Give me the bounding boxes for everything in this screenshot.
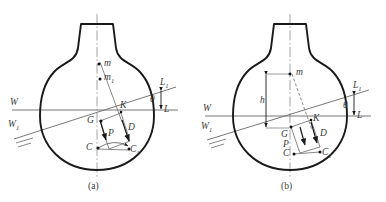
point-dot-K-a bbox=[120, 111, 123, 114]
label-m-b: m bbox=[296, 67, 303, 77]
point-dot-m-a bbox=[98, 63, 101, 66]
caption-b: (b) bbox=[281, 181, 292, 191]
label-C-a: C bbox=[86, 142, 92, 152]
point-dot-m1-a bbox=[99, 78, 102, 81]
label-D-b: D bbox=[320, 128, 327, 138]
figure-canvas: W L W1 L1 θ m m1 K G D P C C1 W L W1 L1 … bbox=[0, 0, 386, 202]
inclination-line-b bbox=[292, 74, 312, 130]
label-K-a: K bbox=[120, 100, 126, 110]
baseline-C-C1-a bbox=[97, 149, 128, 150]
label-W-a: W bbox=[10, 97, 18, 107]
label-W1-a: W1 bbox=[8, 119, 19, 131]
label-theta-b: θ bbox=[343, 100, 348, 110]
point-dot-K-b bbox=[310, 119, 313, 122]
inclination-line-a bbox=[100, 62, 122, 122]
vector-P-b bbox=[300, 127, 305, 145]
label-W-b: W bbox=[203, 103, 211, 113]
label-C1-b: C1 bbox=[322, 147, 332, 159]
point-dot-m-b bbox=[289, 73, 292, 76]
label-D-a: D bbox=[128, 122, 135, 132]
label-P-a: P bbox=[108, 128, 114, 138]
label-theta-a: θ bbox=[150, 94, 155, 104]
point-dot-G-a bbox=[100, 120, 103, 123]
baseline-C-C1-b bbox=[294, 152, 320, 154]
point-dot-G-b bbox=[290, 126, 293, 129]
label-h-b: h bbox=[260, 95, 265, 105]
water-hatch-a bbox=[16, 138, 33, 147]
label-L-a: L bbox=[164, 104, 169, 114]
vector-P-a bbox=[100, 120, 106, 140]
caption-a: (a) bbox=[88, 181, 99, 191]
label-m-a: m bbox=[104, 58, 111, 68]
point-dot-C-a bbox=[97, 147, 100, 150]
label-L-b: L bbox=[357, 110, 362, 120]
label-W1-b: W1 bbox=[201, 121, 212, 133]
label-m1-a: m1 bbox=[104, 72, 114, 84]
point-dot-C-b bbox=[293, 153, 296, 156]
water-hatch-b bbox=[209, 139, 226, 148]
label-K-b: K bbox=[313, 113, 319, 123]
label-C-b: C bbox=[283, 148, 289, 158]
label-G-b: G bbox=[281, 129, 288, 139]
label-L1-b: L1 bbox=[353, 80, 362, 92]
vector-D-b bbox=[311, 122, 317, 143]
label-L1-a: L1 bbox=[160, 77, 169, 89]
stability-diagram-svg bbox=[0, 0, 386, 202]
label-G-a: G bbox=[87, 115, 94, 125]
label-C1-a: C1 bbox=[130, 144, 140, 156]
